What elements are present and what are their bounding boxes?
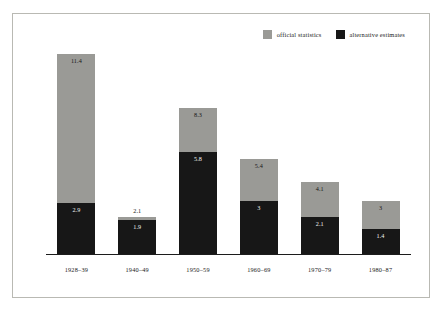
bar-value-official: 5.4 bbox=[255, 163, 263, 201]
legend-entry-alternative: alternative estimates bbox=[336, 30, 406, 39]
legend-swatch-alternative-icon bbox=[336, 30, 345, 39]
bar-segment-official: 4.1 bbox=[301, 182, 339, 217]
bar-group: 8.35.8 bbox=[179, 54, 217, 254]
x-axis-baseline bbox=[46, 254, 411, 255]
bar-segment-alternative: 1.9 bbox=[118, 220, 156, 253]
bar-segment-alternative: 2.9 bbox=[57, 203, 95, 254]
x-axis-tick-label: 1950–59 bbox=[179, 266, 217, 273]
bar-series: 11.42.92.11.98.35.85.434.12.131.4 bbox=[46, 54, 411, 254]
bar-group: 31.4 bbox=[362, 54, 400, 254]
bar-value-alternative: 3 bbox=[257, 205, 260, 254]
plot-area: 11.42.92.11.98.35.85.434.12.131.4 bbox=[46, 54, 411, 255]
bar-value-alternative: 5.8 bbox=[194, 156, 202, 254]
bar-group: 5.43 bbox=[240, 54, 278, 254]
bar-segment-alternative: 3 bbox=[240, 201, 278, 254]
x-axis-tick-label: 1960–69 bbox=[240, 266, 278, 273]
bar-group: 4.12.1 bbox=[301, 54, 339, 254]
bar-segment-alternative: 5.8 bbox=[179, 152, 217, 254]
bar-value-alternative: 1.9 bbox=[133, 224, 141, 253]
bar-segment-official: 11.4 bbox=[57, 54, 95, 203]
x-axis-tick-label: 1980–87 bbox=[362, 266, 400, 273]
x-axis-tick-label: 1940–49 bbox=[118, 266, 156, 273]
bar-value-official: 8.3 bbox=[194, 112, 202, 152]
bar-value-official: 3 bbox=[379, 205, 382, 229]
bar-value-official: 11.4 bbox=[71, 58, 82, 203]
legend-label-alternative: alternative estimates bbox=[350, 31, 406, 38]
bar-segment-official: 3 bbox=[362, 201, 400, 229]
legend-entry-official: official statistics bbox=[263, 30, 322, 39]
x-axis-tick-labels: 1928–391940–491950–591960–691970–791980–… bbox=[46, 266, 411, 273]
bar-segment-official: 8.3 bbox=[179, 108, 217, 152]
bar-value-official: 4.1 bbox=[316, 186, 324, 217]
legend-label-official: official statistics bbox=[277, 31, 322, 38]
bar-value-alternative: 1.4 bbox=[377, 233, 385, 254]
chart-page: official statistics alternative estimate… bbox=[0, 0, 444, 313]
bar-value-official: 2.1 bbox=[118, 208, 156, 214]
bar-value-alternative: 2.9 bbox=[72, 207, 80, 254]
legend-swatch-official-icon bbox=[263, 30, 272, 39]
bar-group: 11.42.9 bbox=[57, 54, 95, 254]
bar-segment-official: 5.4 bbox=[240, 159, 278, 201]
figure-frame: official statistics alternative estimate… bbox=[12, 13, 430, 298]
x-axis-tick-label: 1970–79 bbox=[301, 266, 339, 273]
bar-group: 2.11.9 bbox=[118, 54, 156, 254]
chart-legend: official statistics alternative estimate… bbox=[13, 30, 429, 39]
bar-value-alternative: 2.1 bbox=[316, 221, 324, 254]
x-axis-tick-label: 1928–39 bbox=[57, 266, 95, 273]
bar-segment-alternative: 2.1 bbox=[301, 217, 339, 254]
bar-segment-alternative: 1.4 bbox=[362, 229, 400, 254]
